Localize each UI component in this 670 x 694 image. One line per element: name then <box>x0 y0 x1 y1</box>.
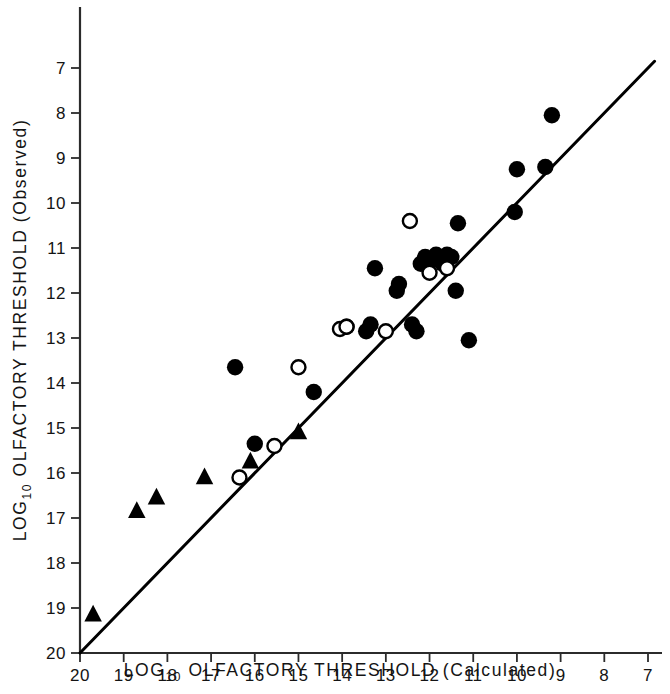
data-point-open-circle <box>379 324 393 338</box>
y-tick-label: 9 <box>56 149 66 168</box>
data-point-open-circle <box>340 320 354 334</box>
x-tick-label: 8 <box>599 666 609 685</box>
data-point-filled-circle <box>408 323 424 339</box>
plot-canvas: 7891011121314151617181920201918171615141… <box>0 0 670 694</box>
data-point-filled-circle <box>227 359 243 375</box>
reference-line <box>80 61 655 653</box>
data-point-open-circle <box>423 266 437 280</box>
x-tick-label: 7 <box>643 666 653 685</box>
data-point-filled-circle <box>450 215 466 231</box>
y-axis-title: LOG10 OLFACTORY THRESHOLD (Observed) <box>10 119 34 542</box>
x-tick-label: 20 <box>70 666 90 685</box>
data-point-filled-triangle <box>290 423 308 440</box>
y-tick-label: 13 <box>46 329 66 348</box>
x-axis-title-subscript: 10 <box>165 670 182 684</box>
data-point-filled-triangle <box>196 468 214 485</box>
y-tick-label: 7 <box>56 59 66 78</box>
data-point-filled-circle <box>362 316 378 332</box>
data-point-filled-triangle <box>148 488 166 505</box>
y-axis-title-rest: OLFACTORY THRESHOLD (Observed) <box>10 119 30 483</box>
data-point-filled-triangle <box>128 501 146 518</box>
data-point-filled-circle <box>507 204 523 220</box>
tick-labels: 7891011121314151617181920201918171615141… <box>46 59 653 685</box>
data-point-open-circle <box>291 360 305 374</box>
y-tick-label: 14 <box>46 374 66 393</box>
y-axis-title-subscript: 10 <box>20 483 34 500</box>
data-point-open-circle <box>403 214 417 228</box>
data-point-filled-circle <box>461 332 477 348</box>
y-tick-label: 17 <box>46 509 66 528</box>
y-tick-label: 19 <box>46 599 66 618</box>
data-point-filled-circle <box>367 260 383 276</box>
olfactory-threshold-scatter-figure: 7891011121314151617181920201918171615141… <box>0 0 670 694</box>
x-tick-label: 9 <box>556 666 566 685</box>
y-tick-label: 10 <box>46 194 66 213</box>
data-point-filled-triangle <box>84 605 102 622</box>
data-point-open-circle <box>440 261 454 275</box>
y-tick-label: 18 <box>46 554 66 573</box>
y-tick-label: 16 <box>46 464 66 483</box>
x-axis-title-rest: OLFACTORY THRESHOLD (Calculated) <box>182 660 556 680</box>
data-point-open-circle <box>232 471 246 485</box>
data-point-filled-circle <box>247 436 263 452</box>
data-point-filled-triangle <box>242 452 260 469</box>
data-point-filled-circle <box>306 384 322 400</box>
x-axis-title-log: LOG <box>124 660 166 680</box>
y-axis-title-log: LOG <box>10 500 30 542</box>
y-tick-label: 15 <box>46 419 66 438</box>
data-point-filled-circle <box>448 283 464 299</box>
y-tick-label: 20 <box>46 644 66 663</box>
data-point-filled-circle <box>537 159 553 175</box>
data-point-filled-circle <box>544 107 560 123</box>
data-point-filled-circle <box>509 161 525 177</box>
y-tick-label: 12 <box>46 284 66 303</box>
data-point-filled-circle <box>391 276 407 292</box>
identity-reference-line <box>80 61 655 653</box>
y-tick-label: 11 <box>47 239 66 258</box>
data-point-open-circle <box>267 439 281 453</box>
y-tick-label: 8 <box>56 104 66 123</box>
data-points <box>84 107 560 621</box>
axis-titles: LOG10 OLFACTORY THRESHOLD (Calculated)LO… <box>10 119 556 684</box>
